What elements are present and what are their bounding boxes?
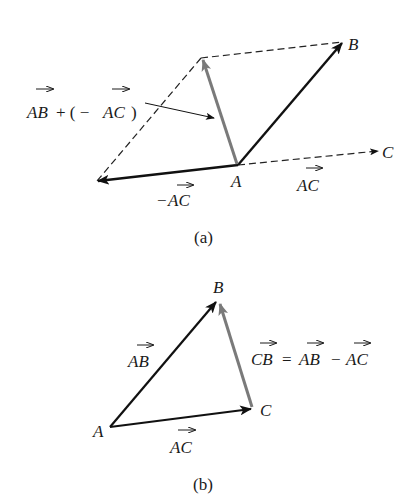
caption-b: (b) — [193, 475, 213, 494]
point-label-C: C — [260, 401, 272, 420]
label-plus-open: + ( − — [56, 103, 89, 122]
vector-AB — [110, 302, 216, 427]
label-AB: AB — [127, 352, 149, 371]
vector-AC-dashed — [238, 151, 378, 165]
vector-neg-AC — [98, 165, 238, 181]
label-CB: CB — [251, 350, 273, 369]
label-equals: = — [282, 350, 292, 369]
equation-CB: CB = AB − AC — [251, 343, 370, 369]
label-AB: AB — [26, 103, 48, 122]
point-label-A: A — [230, 172, 242, 191]
dashed-edge-top — [201, 42, 343, 58]
label-minus: − — [331, 350, 341, 369]
label-AC: AC — [345, 350, 368, 369]
annotation-pointer — [145, 103, 214, 118]
label-AC: AC — [296, 176, 319, 195]
figure-b: B A C AB AC CB = AB − AC (b) — [92, 278, 370, 494]
label-close: ) — [131, 103, 137, 122]
vector-CB — [220, 304, 252, 407]
point-label-C: C — [382, 143, 394, 162]
label-AB: AB — [298, 350, 320, 369]
label-AC: AC — [102, 103, 125, 122]
label-AC-group: AC — [169, 430, 195, 457]
figure-a: B C A AB + ( − AC ) − AC AC (a) — [26, 35, 394, 247]
caption-a: (a) — [194, 228, 213, 247]
vector-AC — [110, 409, 251, 427]
label-AC-group: AC — [296, 168, 322, 195]
label-AB-group: AB — [127, 345, 153, 371]
point-label-A: A — [92, 422, 104, 441]
label-minus: − — [157, 191, 167, 210]
vector-resultant — [203, 60, 237, 164]
label-AC: AC — [169, 438, 192, 457]
vector-AB — [238, 43, 342, 165]
vector-diagram: B C A AB + ( − AC ) − AC AC (a) B A — [0, 0, 414, 498]
point-label-B: B — [348, 35, 359, 54]
point-label-B: B — [213, 278, 224, 297]
label-AC: AC — [167, 191, 190, 210]
annotation-sum: AB + ( − AC ) — [26, 89, 137, 122]
label-neg-AC-group: − AC — [157, 185, 193, 210]
